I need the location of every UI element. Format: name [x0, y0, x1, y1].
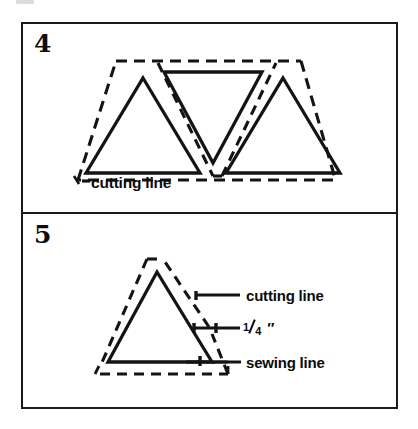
- figure-root: 4 5: [0, 0, 418, 429]
- fraction-one-quarter: 1 4: [243, 320, 261, 335]
- panel-5-leader-seam-allowance: [194, 323, 240, 333]
- panel-5-triangle: [108, 272, 212, 362]
- panel-5-sewing-line-label: sewing line: [246, 355, 325, 370]
- panel-4-sewing-lines-solid: [86, 72, 340, 173]
- panel-4-triangle-left: [86, 78, 200, 173]
- panel-5-seam-allowance-label: 1 4 ″: [243, 320, 275, 337]
- fraction-denominator: 4: [255, 325, 261, 337]
- panel-5-sewing-lines-solid: [108, 272, 212, 362]
- inch-mark: ″: [267, 319, 275, 336]
- panel-4-triangle-middle: [164, 72, 262, 163]
- panel-5-leader-cutting-line: [196, 291, 240, 300]
- panel-5-leader-sewing-line: [186, 356, 241, 366]
- panel-4-cutting-line-label: cutting line: [91, 175, 171, 191]
- panel-5-cutting-line-label: cutting line: [246, 288, 324, 303]
- figure-line-art: [0, 0, 418, 429]
- panel-4-artwork: [74, 61, 340, 184]
- panel-4-triangle-right: [226, 78, 340, 173]
- panel-5-artwork: [95, 259, 241, 374]
- panel-4-cutting-line-leader: [74, 176, 90, 184]
